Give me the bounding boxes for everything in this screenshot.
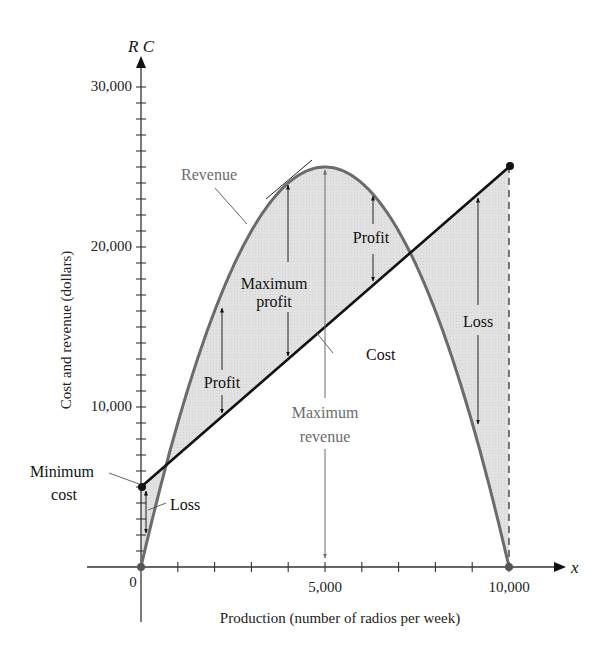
end-cost-point [506,162,514,170]
min-cost-point [138,483,146,491]
max-profit-label-line2: profit [256,293,292,311]
max-revenue-label-line2: revenue [300,428,351,445]
x-tick-label-0: 0 [129,574,137,590]
y-tick-label-30000: 30,000 [91,78,132,94]
loss-left-label: Loss [170,496,200,513]
max-revenue-label-line1: Maximum [292,404,359,421]
x-axis-arrow-icon [554,562,566,572]
y-axis-title: Cost and revenue (dollars) [58,251,75,410]
y-axis-arrow-icon [136,56,146,68]
x-tick-label-5000: 5,000 [308,579,342,595]
x-tick-label-10000: 10,000 [488,579,529,595]
cost-label: Cost [366,346,396,363]
y-tick-label-10000: 10,000 [91,398,132,414]
revenue-label: Revenue [181,166,237,183]
x-var-label: x [570,558,579,577]
loss-right-label: Loss [463,313,493,330]
origin-point [137,563,145,571]
max-profit-label-line1: Maximum [241,275,308,292]
x-axis-title: Production (number of radios per week) [220,610,460,627]
profit-left-label: Profit [204,374,241,391]
profit-right-label: Profit [353,229,390,246]
y-tick-label-20000: 20,000 [91,238,132,254]
cost-revenue-chart: R C x 30,000 20,000 10,000 0 5,000 10,00… [0,0,609,655]
min-cost-label-line1: Minimum [30,463,95,480]
end-revenue-point [505,563,513,571]
min-cost-label-line2: cost [51,486,77,503]
y-var-label: R C [127,37,155,56]
